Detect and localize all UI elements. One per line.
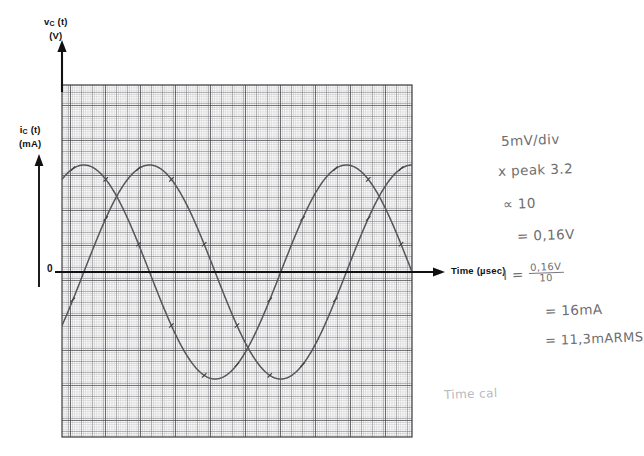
note-volts-per-div: 5mV/div (501, 131, 560, 149)
note-result-volts: = 0,16V (517, 226, 575, 244)
y-axis-label-vc: vC (t) (V) (44, 16, 68, 42)
x-axis-label: Time (µsec) (451, 265, 506, 277)
note-footer-time-cal: Time cal (444, 386, 498, 402)
note-current-equation-lead: I = (503, 266, 524, 283)
y-axis-vc-arrow (57, 40, 66, 92)
y-axis-label-ic: iC (t) (mA) (19, 124, 41, 150)
origin-tick-label: 0 (47, 263, 53, 274)
note-peak: x peak 3.2 (498, 160, 574, 179)
y-axis-ic-unit: (mA) (19, 138, 41, 150)
y-axis-ic-symbol: iC (t) (20, 124, 41, 135)
note-current-result: = 16mA (545, 301, 603, 319)
y-axis-vc-unit: (V) (44, 30, 68, 42)
graph-paper (62, 85, 412, 437)
y-axis-vc-symbol: vC (t) (44, 16, 68, 27)
fraction-denominator: 10 (528, 272, 564, 285)
note-current-fraction: 0,16V 10 (528, 262, 564, 285)
fraction-numerator: 0,16V (528, 262, 563, 274)
note-times-ten: ∝ 10 (503, 195, 536, 212)
y-axis-ic-arrow (35, 154, 44, 287)
note-current-equation: I = 0,16V 10 (503, 263, 564, 287)
